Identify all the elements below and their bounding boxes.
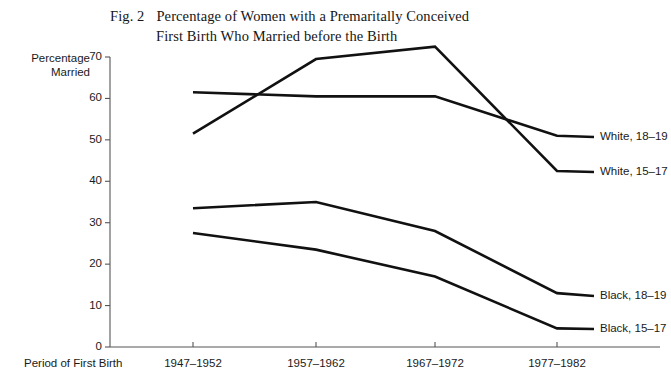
figure-root: Fig. 2Percentage of Women with a Premari… xyxy=(0,0,671,390)
series-line-white-15-17 xyxy=(193,47,594,172)
series-line-black-18-19 xyxy=(193,202,594,296)
plot-area xyxy=(0,0,671,390)
series-line-white-18-19 xyxy=(193,92,594,137)
